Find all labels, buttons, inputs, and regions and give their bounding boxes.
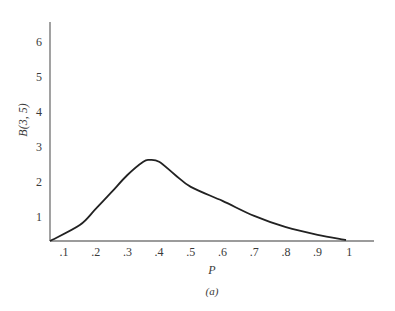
x-tick-labels: .1.2.3.4.5.6.7.8.91 [60, 245, 353, 259]
x-tick-label: .6 [218, 245, 227, 259]
x-tick-label: 1 [346, 245, 352, 259]
y-tick-labels: 123456 [36, 35, 42, 224]
x-tick-label: .4 [155, 245, 164, 259]
figure-caption: (a) [206, 285, 219, 298]
beta-density-curve [50, 160, 346, 241]
y-tick-label: 3 [36, 140, 42, 154]
x-axis-label: P [207, 263, 216, 277]
x-tick-label: .9 [313, 245, 322, 259]
y-tick-label: 5 [36, 70, 42, 84]
x-tick-label: .5 [186, 245, 195, 259]
x-tick-label: .3 [123, 245, 132, 259]
y-tick-label: 4 [36, 105, 42, 119]
x-tick-label: .2 [91, 245, 100, 259]
x-tick-label: .8 [281, 245, 290, 259]
beta-distribution-chart: 123456 .1.2.3.4.5.6.7.8.91 B(3, 5) P (a) [0, 0, 395, 311]
y-tick-label: 2 [36, 175, 42, 189]
y-tick-label: 1 [36, 210, 42, 224]
y-tick-label: 6 [36, 35, 42, 49]
y-axis-label: B(3, 5) [16, 103, 30, 136]
x-tick-label: .1 [60, 245, 69, 259]
x-tick-label: .7 [250, 245, 259, 259]
